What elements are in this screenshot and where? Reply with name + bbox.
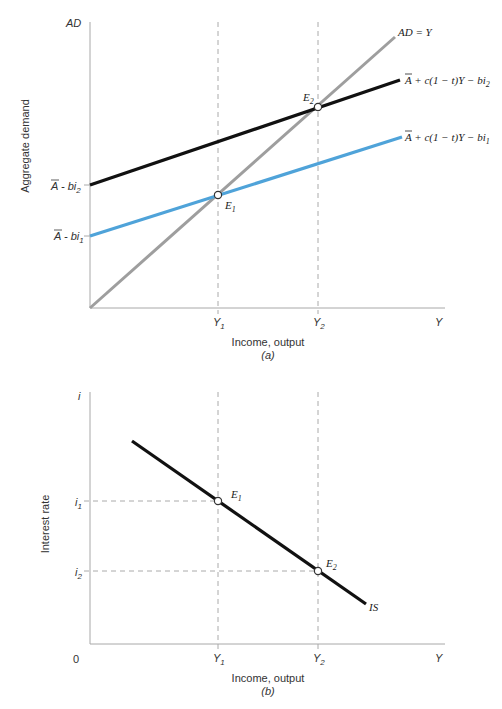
panel-b-i2-tick-label: i2 — [75, 566, 82, 581]
panel-b-x-axis-title: Income, output — [232, 672, 305, 684]
panel-a-y-axis-title: Aggregate demand — [19, 99, 31, 193]
is-e2-label: E2 — [325, 557, 337, 572]
intercept-low-label: A - bi1 — [53, 230, 84, 245]
is-e2-marker — [314, 567, 321, 574]
panel-b-x-axis-end-label: Y — [435, 652, 443, 664]
panel-a-y2-tick-label: Y2 — [313, 316, 325, 331]
panel-b-i-axis-label: i — [78, 390, 81, 402]
panel-b-caption: (b) — [261, 685, 275, 697]
panel-b-i1-tick-label: i1 — [75, 496, 82, 511]
panel-b-y2-tick-label: Y2 — [313, 652, 325, 667]
panel-b: i Interest rate i1 i2 E1 E2 IS 0 Y1 Y2 Y… — [39, 390, 445, 697]
panel-a-ad-axis-label: AD — [65, 17, 81, 29]
is-e1-label: E1 — [230, 488, 242, 503]
panel-b-y1-tick-label: Y1 — [213, 652, 225, 667]
panel-a-x-axis-end-label: Y — [435, 316, 443, 328]
forty-five-degree-line — [90, 37, 395, 308]
ad-line-i1-label: A + c(1 − t)Y − bi1 — [404, 131, 490, 146]
panel-a-y1-tick-label: Y1 — [213, 316, 225, 331]
equilibrium-e2-marker — [314, 103, 321, 110]
intercept-high-label: A - bi2 — [50, 180, 81, 195]
ad-line-i1 — [90, 137, 402, 236]
is-e1-marker — [214, 497, 221, 504]
panel-a: AD Aggregate demand A - bi2 A - bi1 AD =… — [19, 17, 490, 361]
is-curve-derivation-diagram: AD Aggregate demand A - bi2 A - bi1 AD =… — [0, 0, 502, 709]
ad-line-i2-label: A + c(1 − t)Y − bi2 — [404, 74, 490, 89]
equilibrium-e1-label: E1 — [224, 199, 236, 214]
panel-b-y-axis-title: Interest rate — [39, 495, 51, 554]
is-curve-label: IS — [368, 601, 379, 613]
forty-five-line-label: AD = Y — [397, 26, 434, 38]
equilibrium-e1-marker — [214, 191, 221, 198]
is-curve — [132, 441, 366, 604]
panel-b-origin-label: 0 — [73, 653, 79, 665]
panel-a-caption: (a) — [261, 349, 275, 361]
equilibrium-e2-label: E2 — [302, 91, 314, 106]
panel-a-x-axis-title: Income, output — [232, 336, 305, 348]
